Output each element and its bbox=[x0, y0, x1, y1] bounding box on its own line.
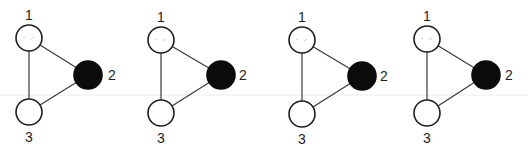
node-3-open bbox=[148, 100, 174, 126]
node-label-2: 2 bbox=[505, 67, 513, 83]
panel-1: 123 bbox=[16, 7, 116, 145]
node-label-2: 2 bbox=[380, 68, 388, 84]
node-label-1: 1 bbox=[25, 7, 33, 23]
panels-layer: 123123123123 bbox=[16, 7, 513, 147]
node-label-2: 2 bbox=[239, 67, 247, 83]
node-label-3: 3 bbox=[423, 130, 431, 146]
node-label-3: 3 bbox=[157, 130, 165, 146]
node-1-open bbox=[414, 26, 440, 52]
node-2-filled bbox=[207, 61, 235, 89]
node-3-open bbox=[16, 99, 42, 125]
panel-3: 123 bbox=[289, 9, 388, 147]
node-1-open bbox=[16, 25, 42, 51]
edge-2-3 bbox=[172, 82, 209, 106]
edge-1-2 bbox=[40, 45, 76, 68]
node-3-open bbox=[414, 100, 440, 126]
node-1-open bbox=[289, 27, 315, 53]
edge-1-2 bbox=[172, 47, 209, 68]
node-label-3: 3 bbox=[298, 131, 306, 147]
node-3-open bbox=[289, 101, 315, 127]
node-2-filled bbox=[74, 61, 102, 89]
node-label-3: 3 bbox=[25, 129, 33, 145]
edge-1-2 bbox=[438, 46, 474, 68]
node-2-filled bbox=[472, 61, 500, 89]
node-label-2: 2 bbox=[108, 67, 116, 83]
edge-2-3 bbox=[438, 83, 474, 106]
node-label-1: 1 bbox=[157, 9, 165, 25]
panel-4: 123 bbox=[414, 8, 513, 146]
panel-2: 123 bbox=[148, 9, 247, 146]
node-2-filled bbox=[348, 62, 376, 90]
node-label-1: 1 bbox=[298, 9, 306, 25]
node-label-1: 1 bbox=[423, 8, 431, 24]
edge-1-2 bbox=[313, 47, 350, 69]
graph-diagram: 123123123123 bbox=[0, 0, 528, 151]
edge-2-3 bbox=[40, 82, 76, 105]
node-1-open bbox=[148, 27, 174, 53]
